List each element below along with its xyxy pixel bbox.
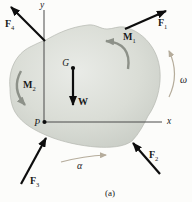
y-axis-label: y xyxy=(39,0,45,10)
angular-acceleration-arc xyxy=(61,155,106,162)
force-f2-label: F2 xyxy=(149,149,158,162)
origin-p-label: P xyxy=(33,118,40,128)
x-axis-label: x xyxy=(166,116,172,126)
origin-p-dot xyxy=(42,120,46,124)
weight-label: W xyxy=(78,96,88,107)
force-f3-label: F3 xyxy=(30,175,39,188)
angular-velocity-arc xyxy=(169,51,175,97)
force-f4-arrow xyxy=(11,7,45,41)
angular-velocity-label: ω xyxy=(180,74,187,85)
mass-center-label: G xyxy=(62,58,69,68)
force-f1-label: F1 xyxy=(158,17,167,30)
rigid-body-free-body-diagram: y x F4 F1 F2 F3 M1 M2 W G P ω α (a) xyxy=(0,0,192,202)
diagram-canvas: y x F4 F1 F2 F3 M1 M2 W G P ω α (a) xyxy=(0,0,192,202)
mass-center-dot xyxy=(71,66,75,70)
force-f4-label: F4 xyxy=(5,18,15,31)
figure-caption: (a) xyxy=(105,188,115,198)
angular-acceleration-label: α xyxy=(77,160,83,171)
